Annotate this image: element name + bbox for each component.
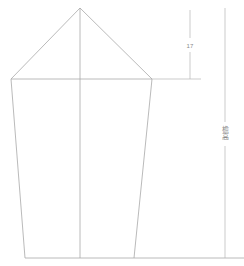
roof-slope-right [80, 8, 152, 79]
roof-slope-left [11, 8, 80, 79]
dimension-roof-height-label: 17 [186, 43, 194, 49]
wall-right [134, 79, 152, 258]
elevation-drawing-canvas: 17 檐高 [0, 0, 244, 266]
dimension-total-height: 檐高 [221, 8, 230, 258]
dimension-roof-height: 17 [186, 10, 194, 79]
wall-left [11, 79, 25, 258]
elevation-drawing: 17 檐高 [0, 0, 244, 266]
building-outline [11, 8, 152, 258]
dimension-total-height-label: 檐高 [221, 125, 230, 141]
